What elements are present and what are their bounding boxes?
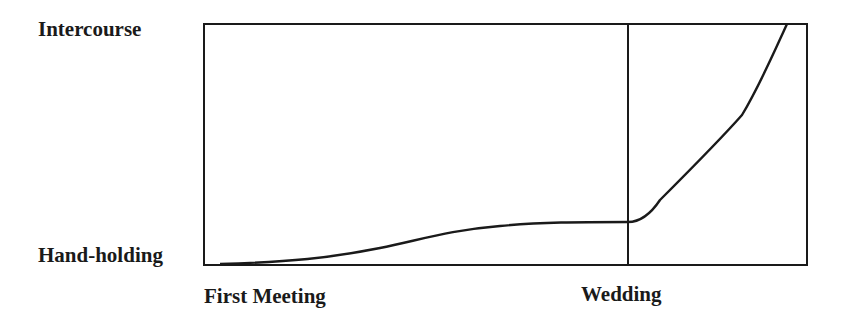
- plot-frame: [204, 24, 807, 265]
- intimacy-curve: [220, 24, 787, 264]
- chart-plot: [0, 0, 853, 321]
